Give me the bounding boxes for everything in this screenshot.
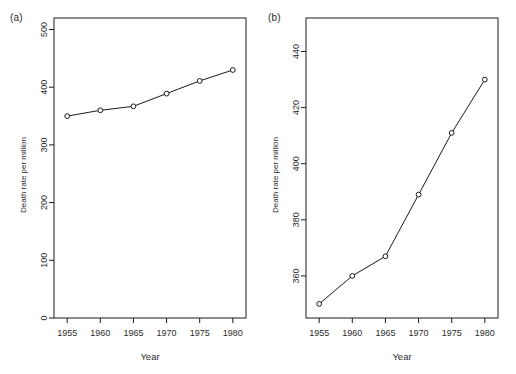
panel-a-y-tick-500: 500 [39,22,49,37]
panel-a-x-tick-1980: 1980 [223,328,243,338]
panel-b-series-points [317,77,487,306]
panel-b-plot-frame [306,18,498,318]
panel-b-data-point [449,131,454,136]
panel-a-data-point [230,68,235,73]
panel-a-y-tick-300: 300 [39,137,49,152]
panel-a-data-point [65,114,70,119]
panel-a-y-tick-0: 0 [39,315,49,320]
panel-b-data-point [482,77,487,82]
panel-b-x-tick-1955: 1955 [309,328,329,338]
panel-a-x-tick-1970: 1970 [157,328,177,338]
panel-b-x-axis-title: Year [392,351,411,362]
panel-a-x-tick-1975: 1975 [190,328,210,338]
panel-a-data-point [197,79,202,84]
panel-a-y-ticks [49,30,54,319]
panel-b-x-tick-1960: 1960 [342,328,362,338]
panel-b-x-ticks [319,318,485,323]
panel-b-y-ticks [301,52,306,276]
panel-a-plot-frame [54,18,246,318]
panel-b-x-tick-1970: 1970 [409,328,429,338]
panel-b-y-tick-440: 440 [291,44,301,59]
panel-a-y-tick-200: 200 [39,195,49,210]
panel-a-data-point [164,91,169,96]
panel-a-data-point [98,108,103,113]
panel-a-plot: 0 100 200 300 400 500 1955 1960 1965 1 [0,0,258,374]
panel-a-x-tick-1955: 1955 [57,328,77,338]
panel-a-data-point [131,104,136,109]
panel-b-series-line [319,80,485,304]
panel-a-x-axis-title: Year [140,351,159,362]
panel-b-y-tick-400: 400 [291,156,301,171]
panel-b-data-point [350,274,355,279]
panel-b-x-tick-1965: 1965 [375,328,395,338]
panel-b-data-point [317,302,322,307]
panel-a-y-tick-labels: 0 100 200 300 400 500 [39,22,49,321]
panel-a-series-line [67,70,233,116]
panel-a-y-tick-100: 100 [39,253,49,268]
panel-a-y-tick-400: 400 [39,80,49,95]
panel-a-x-tick-1965: 1965 [123,328,143,338]
panel-a-x-tick-labels: 1955 1960 1965 1970 1975 1980 [57,328,243,338]
panel-a-series-points [65,68,235,119]
panel-a: (a) 0 100 200 300 400 500 [0,0,258,374]
panel-b-data-point [416,192,421,197]
figure-two-panel-line-charts: (a) 0 100 200 300 400 500 [0,0,516,374]
panel-b-y-axis-title: Death rate per million [271,137,280,213]
panel-a-x-ticks [67,318,233,323]
panel-b-x-tick-labels: 1955 1960 1965 1970 1975 1980 [309,328,495,338]
panel-b-y-tick-labels: 360 380 400 420 440 [291,44,301,283]
panel-b-x-tick-1975: 1975 [442,328,462,338]
panel-b-y-tick-360: 360 [291,268,301,283]
panel-b-x-tick-1980: 1980 [475,328,495,338]
panel-b: (b) 360 380 400 420 440 [258,0,516,374]
panel-b-plot: 360 380 400 420 440 1955 1960 1965 1970 [258,0,516,374]
panel-a-y-axis-title: Death rate per million [19,137,28,213]
panel-b-data-point [383,254,388,259]
panel-a-x-tick-1960: 1960 [90,328,110,338]
panel-b-y-tick-420: 420 [291,100,301,115]
panel-b-y-tick-380: 380 [291,212,301,227]
